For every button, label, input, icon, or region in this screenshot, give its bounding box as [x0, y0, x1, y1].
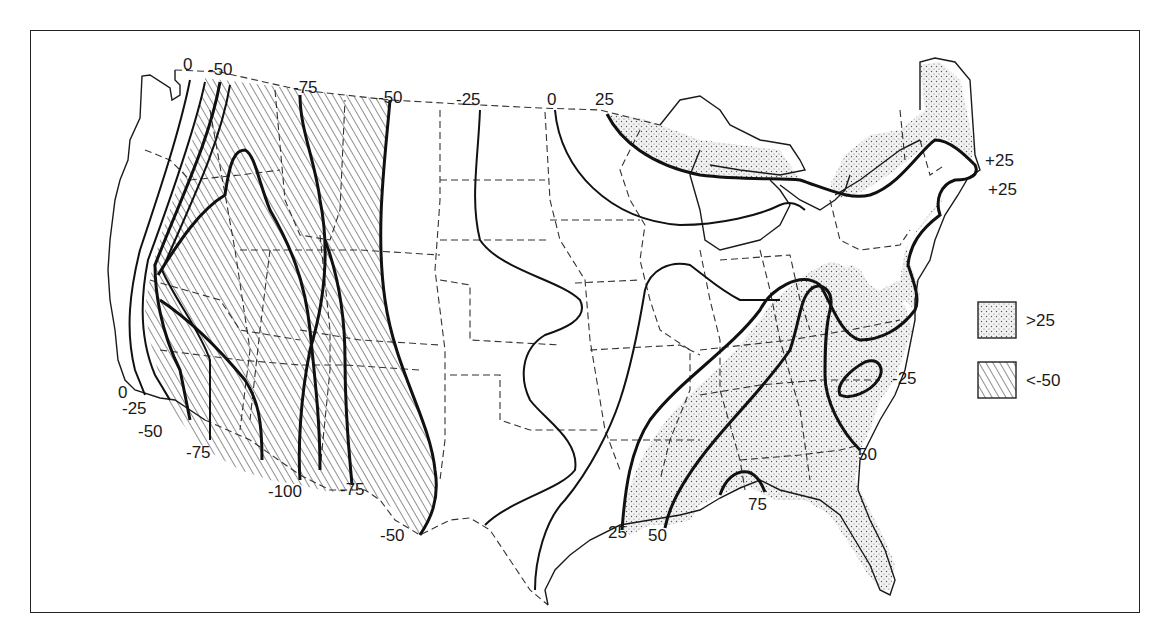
contour-label: -25: [456, 90, 481, 109]
contour-label: -100: [268, 482, 302, 501]
contour-label: 50: [648, 526, 667, 545]
contour-label: +25: [985, 151, 1014, 170]
stippled-region-northeast: [830, 62, 975, 198]
legend-swatch-hatch: [978, 362, 1016, 398]
contour-label: 75: [748, 495, 767, 514]
contour-label: 0: [547, 90, 556, 109]
contour-label: -75: [293, 78, 318, 97]
contour-map: 0 -50 -75 -50 -25 0 25 +25 +25 0 -25 -50…: [0, 0, 1152, 638]
legend-swatch-stipple: [978, 302, 1016, 338]
contour-label: -50: [138, 422, 163, 441]
contour-label: -25: [122, 399, 147, 418]
contour-label: 25: [608, 523, 627, 542]
legend: >25 <-50: [978, 302, 1061, 398]
legend-label-stipple: >25: [1026, 311, 1055, 330]
contour-label: -75: [340, 480, 365, 499]
contour-label: -50: [378, 88, 403, 107]
hatched-region-west: [145, 78, 436, 535]
contour-label: 25: [595, 90, 614, 109]
legend-label-hatch: <-50: [1026, 371, 1061, 390]
contour-label: 0: [183, 55, 192, 74]
contour-label: +25: [988, 180, 1017, 199]
contour-label: -25: [892, 369, 917, 388]
contour-label: -75: [186, 443, 211, 462]
contour-label: -50: [208, 60, 233, 79]
contour-label: -50: [380, 526, 405, 545]
contour-label: 50: [858, 445, 877, 464]
